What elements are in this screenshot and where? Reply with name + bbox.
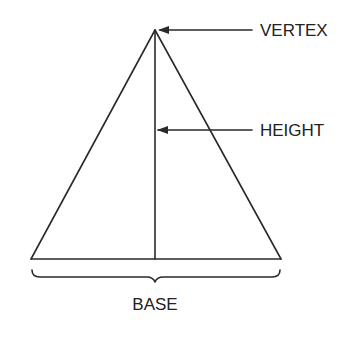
base-brace (32, 270, 280, 282)
height-arrowhead-icon (157, 126, 168, 134)
triangle-right-side (155, 30, 281, 259)
base-label: BASE (132, 295, 177, 314)
vertex-arrowhead-icon (158, 26, 169, 34)
vertex-label: VERTEX (260, 21, 328, 40)
triangle-diagram: VERTEX HEIGHT BASE (0, 0, 358, 338)
height-label: HEIGHT (260, 121, 324, 140)
triangle-left-side (31, 30, 155, 259)
